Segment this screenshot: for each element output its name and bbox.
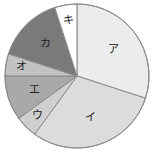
pie-chart: アイウエオカキ <box>0 0 155 152</box>
slice-label: ウ <box>32 109 43 122</box>
slice-label: エ <box>29 83 40 96</box>
slice-label: キ <box>63 14 74 27</box>
slice-label: カ <box>40 37 51 50</box>
pie-slices <box>5 4 149 148</box>
slice-label: イ <box>85 111 96 124</box>
slice-label: ア <box>108 43 119 56</box>
slice-label: オ <box>16 60 27 73</box>
